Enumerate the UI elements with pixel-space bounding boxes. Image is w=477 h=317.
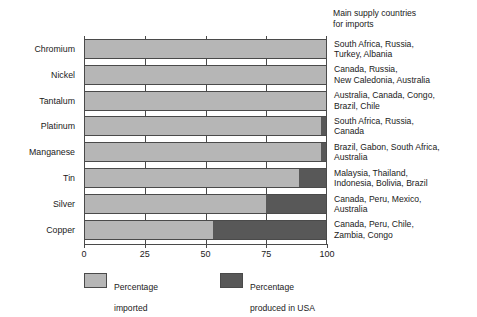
supply-countries-cell: Brazil, Gabon, South Africa, Australia xyxy=(333,139,477,165)
category-label: Tantalum xyxy=(0,88,80,114)
supply-header-line-1: Main supply countries xyxy=(333,8,475,19)
stacked-bar xyxy=(84,194,327,214)
x-axis-tick xyxy=(145,244,146,248)
x-axis-tick-label: 50 xyxy=(200,249,210,259)
supply-countries-cell: South Africa, Russia, Turkey, Albania xyxy=(333,36,477,62)
legend-label-usa-line-1: Percentage xyxy=(250,282,315,292)
legend-label-produced-usa: Percentage produced in USA xyxy=(250,272,315,317)
bar-segment-imported xyxy=(85,66,326,84)
supply-header-line-2: for imports xyxy=(333,19,475,30)
category-label: Silver xyxy=(0,191,80,217)
bar-segment-imported xyxy=(85,40,326,58)
legend-swatch-imported xyxy=(84,273,107,288)
bar-row xyxy=(84,36,327,62)
supply-countries-cell: Canada, Russia, New Caledonia, Australia xyxy=(333,62,477,88)
legend-item-produced-usa: Percentage produced in USA xyxy=(220,272,315,317)
supply-line-2: Australia xyxy=(334,152,477,162)
supply-line-1: Malaysia, Thailand, xyxy=(334,168,477,178)
x-axis-tick-label: 0 xyxy=(81,249,86,259)
category-label: Chromium xyxy=(0,36,80,62)
stacked-bar xyxy=(84,168,327,188)
supply-line-1: South Africa, Russia, xyxy=(334,39,477,49)
x-axis-tick-label: 25 xyxy=(140,249,150,259)
bar-row xyxy=(84,139,327,165)
category-label: Manganese xyxy=(0,139,80,165)
supply-countries-cell: Canada, Peru, Mexico, Australia xyxy=(333,191,477,217)
bar-segment-imported xyxy=(85,143,321,161)
bar-row xyxy=(84,191,327,217)
bar-segment-produced-usa xyxy=(321,143,326,161)
supply-line-2: Zambia, Congo xyxy=(334,230,477,240)
supply-line-1: Canada, Peru, Chile, xyxy=(334,219,477,229)
legend-swatch-produced-usa xyxy=(220,273,243,288)
category-label: Nickel xyxy=(0,62,80,88)
stacked-bar xyxy=(84,65,327,85)
supply-line-1: Australia, Canada, Congo, xyxy=(334,90,477,100)
stacked-bar xyxy=(84,220,327,240)
stacked-bar xyxy=(84,39,327,59)
bar-row xyxy=(84,165,327,191)
supply-countries-cell: Canada, Peru, Chile, Zambia, Congo xyxy=(333,217,477,243)
supply-line-1: Brazil, Gabon, South Africa, xyxy=(334,142,477,152)
supply-countries-column: South Africa, Russia, Turkey, Albania Ca… xyxy=(333,36,477,243)
bar-segment-produced-usa xyxy=(213,221,326,239)
supply-countries-header: Main supply countries for imports xyxy=(333,8,475,29)
legend-label-imported: Percentage imported xyxy=(114,272,158,317)
supply-line-2: Indonesia, Bolivia, Brazil xyxy=(334,178,477,188)
supply-countries-cell: Australia, Canada, Congo, Brazil, Chile xyxy=(333,88,477,114)
category-label: Platinum xyxy=(0,114,80,140)
x-axis-tick xyxy=(84,244,85,248)
legend-label-usa-line-2: produced in USA xyxy=(250,303,315,313)
bar-segment-imported xyxy=(85,221,213,239)
supply-line-2: Canada xyxy=(334,126,477,136)
legend-label-imported-line-1: Percentage xyxy=(114,282,158,292)
bar-segment-produced-usa xyxy=(321,117,326,135)
stacked-bar xyxy=(84,142,327,162)
x-axis-tick-label: 75 xyxy=(261,249,271,259)
supply-line-2: Brazil, Chile xyxy=(334,101,477,111)
category-label: Copper xyxy=(0,217,80,243)
plot-area xyxy=(84,36,327,244)
x-axis-tick xyxy=(327,244,328,248)
stacked-bar xyxy=(84,91,327,111)
category-axis-labels: Chromium Nickel Tantalum Platinum Mangan… xyxy=(0,36,80,243)
supply-line-2: New Caledonia, Australia xyxy=(334,75,477,85)
bar-segment-imported xyxy=(85,117,321,135)
bar-segment-produced-usa xyxy=(266,195,326,213)
x-axis-tick xyxy=(206,244,207,248)
x-axis-tick-label: 100 xyxy=(319,249,334,259)
supply-line-1: South Africa, Russia, xyxy=(334,116,477,126)
supply-line-1: Canada, Peru, Mexico, xyxy=(334,194,477,204)
category-label: Tin xyxy=(0,165,80,191)
stacked-bar xyxy=(84,116,327,136)
legend-item-imported: Percentage imported xyxy=(84,272,158,317)
bar-row xyxy=(84,114,327,140)
bar-segment-imported xyxy=(85,169,299,187)
bar-segment-imported xyxy=(85,92,326,110)
supply-line-2: Turkey, Albania xyxy=(334,49,477,59)
supply-line-2: Australia xyxy=(334,204,477,214)
bar-row xyxy=(84,217,327,243)
bar-segment-produced-usa xyxy=(299,169,326,187)
bar-row xyxy=(84,88,327,114)
bar-row xyxy=(84,62,327,88)
legend-label-imported-line-2: imported xyxy=(114,303,158,313)
supply-line-1: Canada, Russia, xyxy=(334,64,477,74)
x-axis-tick xyxy=(266,244,267,248)
bar-rows xyxy=(84,36,327,244)
supply-countries-cell: South Africa, Russia, Canada xyxy=(333,114,477,140)
supply-countries-cell: Malaysia, Thailand, Indonesia, Bolivia, … xyxy=(333,165,477,191)
bar-segment-imported xyxy=(85,195,266,213)
